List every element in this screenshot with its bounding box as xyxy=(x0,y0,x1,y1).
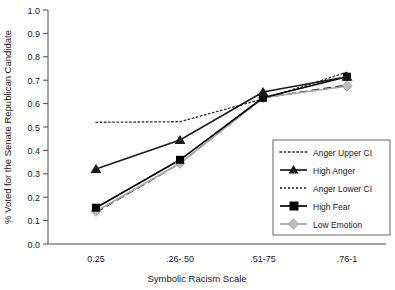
y-tick-label: 0.0 xyxy=(27,240,40,250)
y-tick-label: 1.0 xyxy=(27,6,40,16)
y-tick-label: 0.4 xyxy=(27,146,40,156)
legend-label: High Anger xyxy=(313,166,355,176)
data-point-marker xyxy=(92,204,100,212)
x-axis-title: Symbolic Racism Scale xyxy=(147,273,246,284)
legend-item-high-fear[interactable]: High Fear xyxy=(280,202,350,212)
legend-label: Low Emotion xyxy=(313,220,362,230)
y-tick-label: 0.5 xyxy=(27,123,40,133)
chart-legend: Anger Upper CI High Anger Anger Lower CI… xyxy=(273,140,390,235)
x-tick-label: .51-75 xyxy=(250,254,276,264)
y-tick-label: 0.9 xyxy=(27,29,40,39)
legend-label: Anger Lower CI xyxy=(313,184,372,194)
y-tick-label: 0.2 xyxy=(27,193,40,203)
y-tick-label: 0.6 xyxy=(27,99,40,109)
chart-container: 1.0 0.9 0.8 0.7 0.6 0.5 0.4 0.3 0.2 0.1 … xyxy=(0,0,395,290)
y-tick-label: 0.3 xyxy=(27,169,40,179)
scatter-line-chart: 1.0 0.9 0.8 0.7 0.6 0.5 0.4 0.3 0.2 0.1 … xyxy=(0,0,395,290)
x-tick-label: .76-1 xyxy=(337,254,358,264)
legend-label: Anger Upper CI xyxy=(313,148,372,158)
y-axis-title: % Voted for the Senate Republican Candid… xyxy=(2,30,13,224)
y-tick-label: 0.7 xyxy=(27,76,40,86)
x-tick-label: .26-.50 xyxy=(166,254,194,264)
data-point-marker xyxy=(176,156,184,164)
legend-label: High Fear xyxy=(313,202,350,212)
legend-item-low-emotion[interactable]: Low Emotion xyxy=(280,219,362,230)
y-tick-label: 0.1 xyxy=(27,216,40,226)
x-tick-label: 0.25 xyxy=(87,254,105,264)
y-tick-label: 0.8 xyxy=(27,52,40,62)
square-marker-icon xyxy=(290,202,299,211)
